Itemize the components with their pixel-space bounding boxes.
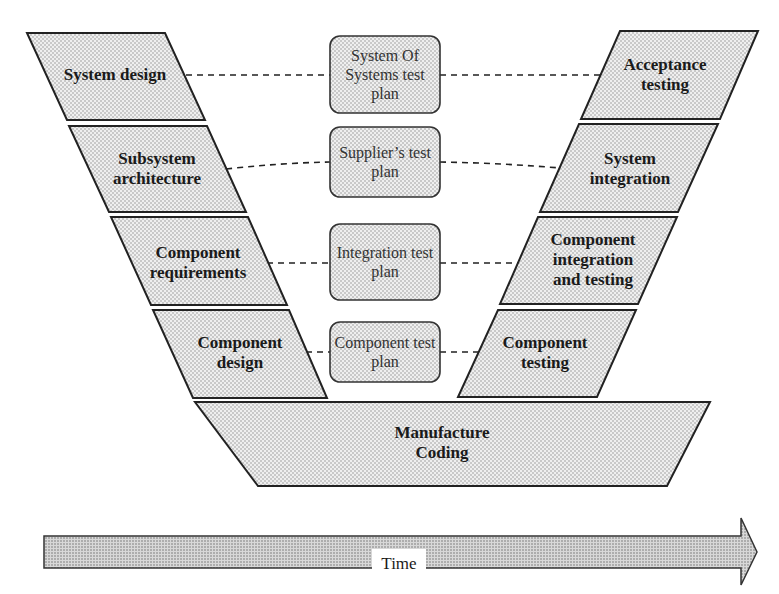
label-acceptance-testing: Acceptance testing	[610, 52, 720, 98]
label-component-design: Component design	[185, 330, 295, 376]
label-system-integration: System integration	[575, 146, 685, 192]
label-component-test-plan: Component test plan	[333, 324, 437, 380]
label-component-requirements: Component requirements	[128, 240, 268, 286]
label-manufacture-coding: Manufacture Coding	[372, 420, 512, 466]
label-manufacture: Manufacture	[394, 423, 489, 443]
label-integration-test-plan: Integration test plan	[333, 227, 437, 297]
label-system-design: System design	[45, 62, 185, 88]
label-time: Time	[372, 549, 426, 579]
label-sos-test-plan: System Of Systems test plan	[333, 38, 437, 110]
label-supplier-test-plan: Supplier’s test plan	[333, 130, 437, 194]
label-subsystem-architecture: Subsystem architecture	[102, 146, 212, 192]
label-component-integration-testing: Component integration and testing	[538, 218, 648, 302]
label-coding: Coding	[416, 443, 469, 463]
label-component-testing: Component testing	[490, 330, 600, 376]
